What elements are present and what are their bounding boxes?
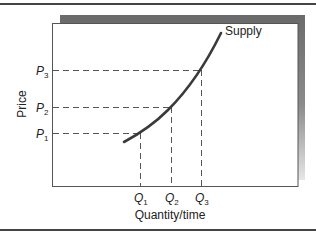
- plot-frame: [53, 24, 299, 187]
- p2-label: P2: [36, 101, 49, 117]
- q2-label: Q2: [165, 191, 179, 207]
- frame-shadow-right: [298, 15, 305, 180]
- supply-label: Supply: [225, 24, 262, 38]
- q1-label: Q1: [134, 191, 148, 207]
- bottom-rule: [0, 229, 316, 231]
- q3-label: Q3: [195, 191, 209, 207]
- price-labels: P3 P2 P1: [36, 64, 49, 143]
- y-axis-title: Price: [15, 90, 29, 118]
- frame-shadow-top: [60, 15, 305, 23]
- x-axis-title: Quantity/time: [135, 208, 206, 222]
- supply-curve-figure: Supply P3 P2 P1 Q1 Q2 Q3 Price Quantity/…: [0, 0, 316, 233]
- top-rule: [0, 3, 316, 5]
- p3-label: P3: [36, 64, 49, 80]
- p1-label: P1: [36, 127, 49, 143]
- quantity-labels: Q1 Q2 Q3: [134, 191, 209, 207]
